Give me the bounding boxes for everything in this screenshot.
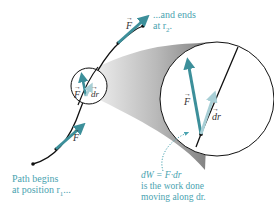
- work-caption-line3: moving along dr.: [141, 192, 206, 203]
- force-label-magnified: F: [184, 97, 190, 107]
- work-along-path-diagram: F F F dr F dr ...and ends at r2. Path be…: [0, 0, 274, 209]
- displacement-label-magnified: dr: [212, 112, 221, 122]
- path-end-point: [141, 24, 145, 28]
- work-caption: dW = F·dr is the work done moving along …: [141, 170, 206, 203]
- work-equation: dW = F·dr: [141, 170, 206, 181]
- start-caption: Path begins at position r1...: [12, 173, 71, 200]
- large-magnify-circle: [160, 42, 274, 156]
- force-label-upper: F: [126, 21, 132, 31]
- start-caption-line2: at position r1...: [12, 184, 71, 200]
- end-caption-line1: ...and ends: [153, 9, 196, 20]
- start-caption-line1: Path begins: [12, 173, 71, 184]
- displacement-label-small-circle: dr: [91, 90, 99, 99]
- end-caption: ...and ends at r2.: [153, 9, 196, 36]
- end-caption-line2: at r2.: [153, 20, 196, 36]
- force-label-small-circle: F: [74, 90, 80, 100]
- force-label-lower: F: [73, 133, 79, 143]
- path-start-point: [31, 162, 35, 166]
- work-caption-line2: is the work done: [141, 181, 206, 192]
